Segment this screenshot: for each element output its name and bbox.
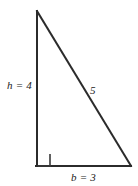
triangle-drawing <box>0 0 138 186</box>
right-angle-square-icon <box>38 154 50 166</box>
height-label: h = 4 <box>7 80 32 91</box>
base-label: b = 3 <box>71 172 96 183</box>
triangle-hypotenuse <box>37 11 131 166</box>
right-triangle-figure: h = 4 5 b = 3 <box>0 0 138 186</box>
hypotenuse-label: 5 <box>90 85 96 96</box>
